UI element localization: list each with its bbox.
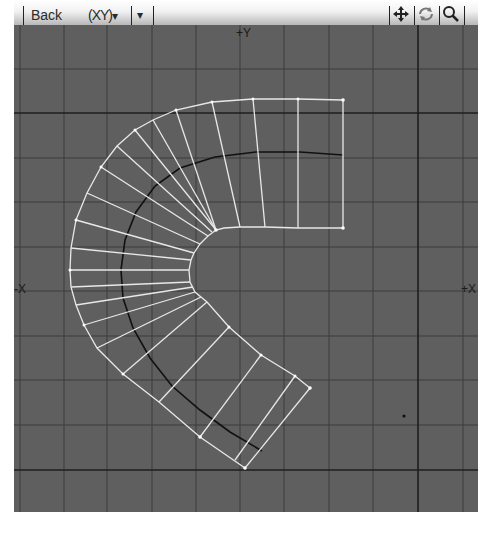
spline-curve[interactable] [121,152,343,451]
mesh-wireframe[interactable] [70,99,343,468]
zoom-icon [441,5,461,23]
rotate-icon [416,5,436,23]
axis-label-minus-x: -X [14,282,26,296]
major-grid-lines [14,25,478,512]
axis-label-plus-y: +Y [236,26,251,40]
stray-point [402,414,405,417]
viewport-toolbar: Back (XY)▾ ▾ [14,0,478,26]
rotate-view-button[interactable] [416,5,436,23]
toolbar-separator [23,6,24,25]
orthographic-viewport[interactable]: +Y -X +X [14,25,478,512]
toolbar-separator [389,6,390,25]
grid-lines [14,25,478,512]
toolbar-separator [414,6,415,25]
move-view-button[interactable] [391,5,411,23]
toolbar-separator [464,6,465,25]
toolbar-separator [439,6,440,25]
viewport-canvas [14,25,478,512]
toolbar-separator [153,6,154,25]
chevron-down-icon: ▾ [137,8,143,22]
toolbar-separator [131,6,132,25]
render-mode-dropdown[interactable]: ▾ [137,7,143,23]
view-name-label[interactable]: Back [31,7,62,23]
chevron-down-icon: ▾ [112,9,117,23]
axis-label-plus-x: +X [461,282,476,296]
move-icon [391,5,411,23]
view-mode-label: (XY) [88,7,112,23]
view-mode-dropdown[interactable]: (XY)▾ [88,7,117,24]
zoom-view-button[interactable] [441,5,461,23]
